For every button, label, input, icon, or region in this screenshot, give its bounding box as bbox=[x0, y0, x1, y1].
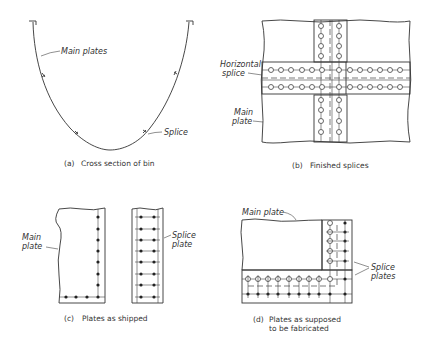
diagram-canvas: Main plates Splice (a) Cross section of … bbox=[0, 0, 434, 340]
label-splice: splice bbox=[222, 69, 245, 78]
main-plate-leader bbox=[283, 212, 296, 220]
caption-d-letter: (d) bbox=[253, 315, 264, 324]
main-plate-leader bbox=[253, 121, 263, 122]
label-main: Main bbox=[234, 108, 253, 117]
splice-mark-left-upper bbox=[42, 73, 45, 77]
label-splice: Splice bbox=[172, 231, 196, 240]
caption-c-text: Plates as shipped bbox=[82, 314, 148, 323]
label-main-plates: Main plates bbox=[61, 47, 107, 56]
panel-c-plates-as-shipped: Main plate Splice plate (c) Plates as sh… bbox=[21, 208, 196, 323]
panel-a-cross-section: Main plates Splice (a) Cross section of … bbox=[29, 21, 193, 168]
bolt-holes-vertical-splice bbox=[326, 221, 349, 264]
caption-b-letter: (b) bbox=[292, 161, 303, 170]
rivets-splice-plate bbox=[135, 215, 160, 298]
label-plate: plate bbox=[171, 240, 192, 249]
splice-mark-left-lower bbox=[75, 131, 78, 134]
panel-d-plates-as-fabricated: Main plate Splice plates (d) Plates as s… bbox=[241, 208, 395, 333]
left-flange bbox=[29, 21, 36, 25]
panel-b-finished-splices: Horizontal splice Main plate (b) Finishe… bbox=[220, 20, 411, 170]
label-main: Main bbox=[22, 233, 41, 242]
splice-leader bbox=[148, 132, 162, 134]
label-main-plate: Main plate bbox=[242, 208, 284, 217]
caption-a-letter: (a) bbox=[64, 159, 75, 168]
splice-mark-right-lower bbox=[143, 130, 146, 133]
splice-mark-right-upper bbox=[174, 71, 177, 75]
splice-plate-leader bbox=[164, 235, 171, 238]
main-plates-leader bbox=[41, 51, 60, 56]
rivets-main-plate bbox=[64, 215, 99, 298]
label-splice: Splice bbox=[371, 263, 395, 272]
caption-b-text: Finished splices bbox=[310, 161, 369, 170]
caption-a-text: Cross section of bin bbox=[81, 159, 155, 168]
splice-plates-leader-upper bbox=[354, 262, 369, 267]
bolt-holes-horizontal bbox=[269, 68, 403, 90]
label-horizontal: Horizontal bbox=[220, 60, 262, 69]
label-plate: plate bbox=[21, 242, 42, 251]
horizontal-splice-leader bbox=[248, 73, 262, 75]
caption-d-text-line1: Plates as supposed bbox=[269, 315, 341, 324]
splice-plate-outline bbox=[132, 208, 163, 303]
label-plate: plate bbox=[231, 117, 252, 126]
caption-d-text-line2: to be fabricated bbox=[269, 324, 329, 333]
main-plate-leader bbox=[46, 247, 58, 249]
bolt-holes-horizontal-splice bbox=[246, 275, 347, 298]
main-plate-outline bbox=[241, 219, 322, 270]
label-plates: plates bbox=[370, 272, 395, 281]
horizontal-splice-plate bbox=[242, 270, 352, 303]
splice-plates-leader-lower bbox=[355, 268, 369, 275]
main-plate-outline bbox=[56, 208, 105, 303]
label-splice: Splice bbox=[164, 128, 188, 137]
main-plates-outline bbox=[261, 20, 411, 143]
joint-dash bbox=[248, 222, 337, 286]
caption-c-letter: (c) bbox=[64, 314, 74, 323]
right-flange bbox=[186, 21, 193, 25]
